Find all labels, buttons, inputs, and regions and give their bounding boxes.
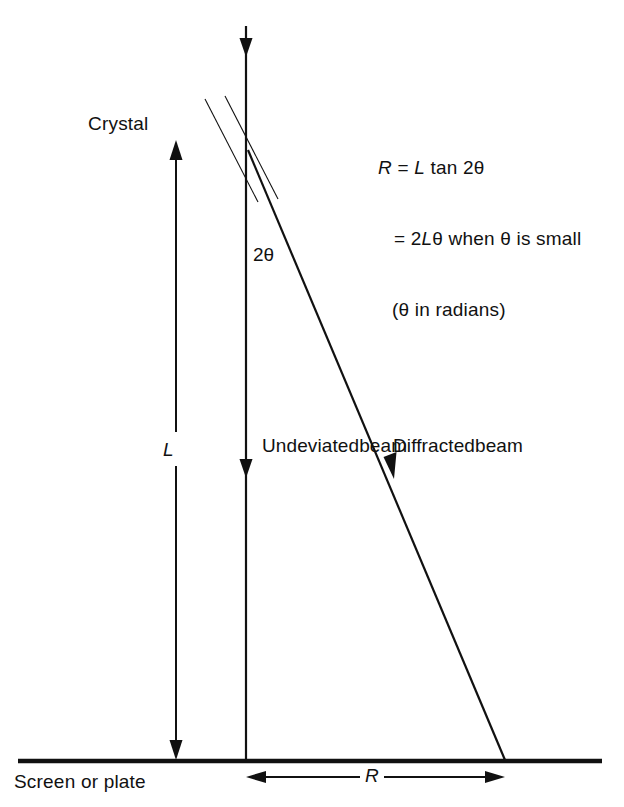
crystal-label: Crystal (88, 112, 149, 136)
equation-line-2-rhs: θ when θ is small (432, 228, 581, 249)
diffraction-diagram-figure: Crystal R = L tan 2θ = 2Lθ when θ is sma… (0, 0, 624, 807)
equation-line-2: = 2Lθ when θ is small (378, 227, 581, 251)
two-theta-angle-label: 2θ (253, 243, 274, 267)
lattice-plane-line-2 (225, 96, 278, 199)
incident-beam-arrowhead (240, 38, 253, 57)
equation-line-1-rhs: tan 2θ (425, 157, 485, 178)
equation-line-1: R = L tan 2θ (378, 156, 581, 180)
equation-r-symbol: R (378, 157, 392, 178)
equation-annotation: R = L tan 2θ = 2Lθ when θ is small (θ in… (378, 108, 581, 369)
radius-dimension-label: R (365, 764, 379, 788)
equation-l-symbol-2: L (422, 228, 433, 249)
undeviated-beam-label-line-1: Undeviated (262, 435, 359, 456)
length-dimension-label: L (163, 438, 174, 462)
equation-l-symbol-1: L (414, 157, 425, 178)
equation-line-2-relation: = 2 (394, 228, 422, 249)
length-dimension-bottom-arrowhead (170, 740, 183, 760)
diffracted-beam-label-line-1: Diffracted (393, 435, 475, 456)
diffracted-beam-label-line-2: beam (475, 435, 523, 456)
crystal-lattice-planes-group (205, 96, 278, 202)
undeviated-beam-arrowhead (240, 459, 253, 478)
diffracted-beam-label: Diffractedbeam (393, 434, 523, 458)
equation-line-1-relation: = (392, 157, 414, 178)
equation-line-3: (θ in radians) (378, 298, 581, 322)
radius-dimension-right-arrowhead (485, 771, 505, 783)
lattice-plane-line-1 (205, 99, 258, 202)
undeviated-beam-label: Undeviatedbeam (262, 434, 407, 458)
screen-plate-label: Screen or plate (14, 770, 146, 794)
